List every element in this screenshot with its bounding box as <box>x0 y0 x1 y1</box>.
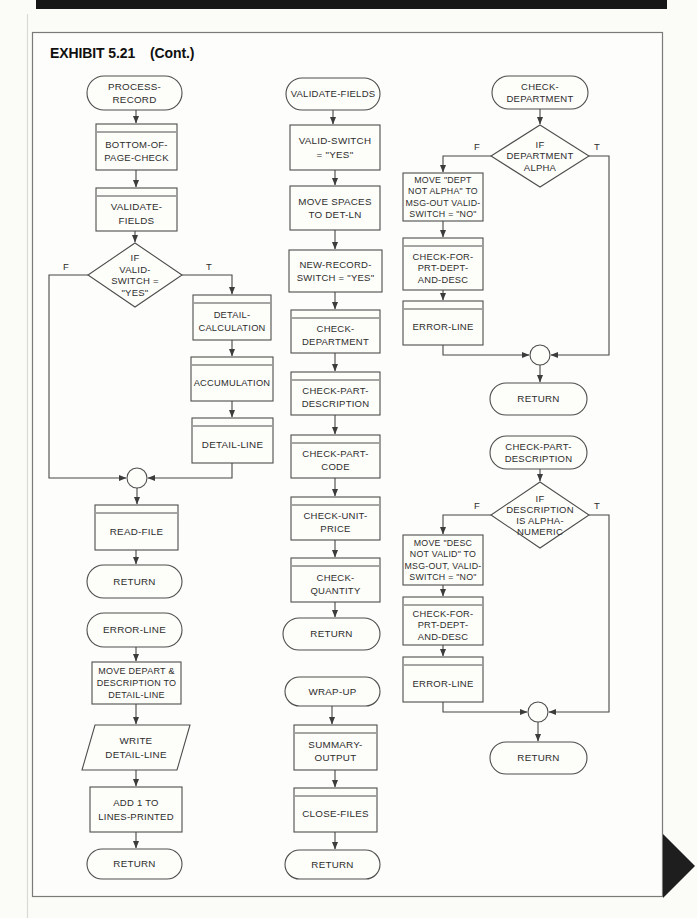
return-terminator-5: RETURN <box>490 383 587 415</box>
node-label: READ-FILE <box>110 526 164 537</box>
accumulation-module: ACCUMULATION <box>191 357 273 401</box>
check-part-code-module: CHECK-PART-CODE <box>291 435 380 478</box>
move-depart-description-process: MOVE DEPART &DESCRIPTION TODETAIL-LINE <box>92 662 181 704</box>
move-spaces-process: MOVE SPACESTO DET-LN <box>290 186 380 230</box>
node-label: CHECK-PART-DESCRIPTION <box>505 441 573 464</box>
move-dept-not-alpha-process: MOVE "DEPTNOT ALPHA" TOMSG-OUT VALID-SWI… <box>403 173 483 221</box>
return-terminator-4: RETURN <box>285 850 380 879</box>
validate-fields-terminator: VALIDATE-FIELDS <box>286 78 380 110</box>
return-terminator-3: RETURN <box>283 618 380 650</box>
detail-calculation-module: DETAIL-CALCULATION <box>193 295 271 340</box>
wrap-up-terminator: WRAP-UP <box>285 677 380 706</box>
close-files-module: CLOSE-FILES <box>294 788 377 832</box>
node-label: ERROR-LINE <box>103 624 166 635</box>
exhibit-title-cont: (Cont.) <box>150 45 194 61</box>
node-label: CHECK-FOR-PRT-DEPT-AND-DESC <box>413 252 474 285</box>
return-terminator-1: RETURN <box>87 565 182 598</box>
connector-circle-3 <box>528 702 548 722</box>
node-label: RETURN <box>311 859 353 870</box>
flowchart-page: EXHIBIT 5.21 (Cont.) PROCESS-RECORDBOTTO… <box>0 0 697 918</box>
node-label: ERROR-LINE <box>412 678 473 689</box>
node-label: CHECK-FOR-PRT-DEPT-AND-DESC <box>413 609 474 642</box>
node-label: MOVE DEPART &DESCRIPTION TODETAIL-LINE <box>97 666 177 701</box>
write-detail-line-io: WRITEDETAIL-LINE <box>82 725 190 770</box>
node-label: MOVE "DEPTNOT ALPHA" TOMSG-OUT VALID-SWI… <box>405 175 480 220</box>
connector-circle-1 <box>127 468 147 488</box>
check-department-terminator: CHECK-DEPARTMENT <box>492 76 588 109</box>
node-label: RETURN <box>517 752 559 763</box>
branch-label: F <box>63 261 69 272</box>
branch-label: T <box>594 141 600 152</box>
check-for-prt-dept-and-desc-module-1: CHECK-FOR-PRT-DEPT-AND-DESC <box>403 238 483 290</box>
error-line-module-1: ERROR-LINE <box>403 301 483 345</box>
exhibit-title: EXHIBIT 5.21 <box>50 45 135 61</box>
error-line-terminator: ERROR-LINE <box>87 613 182 647</box>
top-black-bar <box>36 0 667 9</box>
check-part-description-module: CHECK-PART-DESCRIPTION <box>291 372 380 415</box>
read-file-module: READ-FILE <box>95 505 178 550</box>
node-label: CLOSE-FILES <box>302 808 369 819</box>
node-label: MOVE "DESCNOT VALID" TOMSG-OUT, VALID-SW… <box>405 538 482 583</box>
branch-label: T <box>594 500 600 511</box>
node-label: RETURN <box>113 858 155 869</box>
node-label: VALIDATE-FIELDS <box>291 88 376 99</box>
corner-arrow-icon <box>663 834 695 898</box>
branch-label: T <box>206 261 212 272</box>
node-label: WRAP-UP <box>308 686 356 697</box>
node-label: ACCUMULATION <box>194 378 271 388</box>
summary-output-module: SUMMARY-OUTPUT <box>294 725 377 770</box>
node-label: RETURN <box>310 628 352 639</box>
check-unit-price-module: CHECK-UNIT-PRICE <box>291 497 380 540</box>
process-record-terminator: PROCESS-RECORD <box>87 76 182 110</box>
connector-circle-2 <box>530 345 550 365</box>
node-label: RETURN <box>517 393 559 404</box>
detail-line-module: DETAIL-LINE <box>192 418 273 463</box>
check-for-prt-dept-and-desc-module-2: CHECK-FOR-PRT-DEPT-AND-DESC <box>403 597 483 645</box>
check-department-module: CHECK-DEPARTMENT <box>291 310 380 353</box>
add-1-to-lines-printed-process: ADD 1 TOLINES-PRINTED <box>90 787 182 832</box>
node-label: RETURN <box>113 576 155 587</box>
check-quantity-module: CHECK-QUANTITY <box>291 558 380 602</box>
node-label: DETAIL-LINE <box>202 439 264 450</box>
valid-switch-yes-process: VALID-SWITCH= "YES" <box>290 125 380 170</box>
move-desc-not-valid-process: MOVE "DESCNOT VALID" TOMSG-OUT, VALID-SW… <box>403 535 483 585</box>
return-terminator-2: RETURN <box>87 849 182 879</box>
new-record-switch-process: NEW-RECORD-SWITCH = "YES" <box>289 250 382 292</box>
validate-fields-module: VALIDATE-FIELDS <box>96 188 177 231</box>
branch-label: F <box>474 500 480 511</box>
return-terminator-6: RETURN <box>490 742 587 774</box>
check-part-description-terminator: CHECK-PART-DESCRIPTION <box>490 436 587 469</box>
branch-label: F <box>474 141 480 152</box>
error-line-module-2: ERROR-LINE <box>403 657 483 702</box>
node-label: ERROR-LINE <box>412 321 473 332</box>
bottom-of-page-check-module: BOTTOM-OF-PAGE-CHECK <box>96 124 177 170</box>
